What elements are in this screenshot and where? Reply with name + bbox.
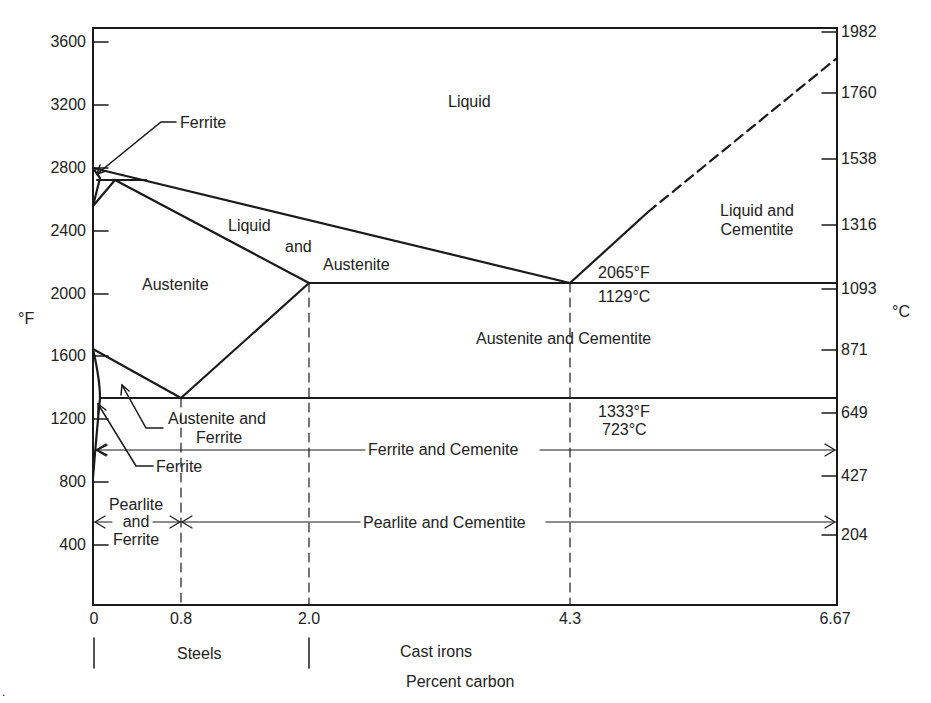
y-left-tick-2000: 2000 <box>20 285 86 303</box>
eutectic-temp-f: 2065°F <box>598 264 650 282</box>
region-austenite-cementite: Austenite and Cementite <box>476 330 651 348</box>
leader-lines <box>97 122 176 466</box>
y-right-tick-1982: 1982 <box>841 23 877 41</box>
x-tick-4-3: 4.3 <box>550 610 590 628</box>
stray-mark: . <box>2 683 5 701</box>
label-ferrite-bottom: Ferrite <box>156 458 202 476</box>
x-axis-label: Percent carbon <box>406 673 515 691</box>
y-right-axis-label: °C <box>892 303 910 321</box>
y-right-tick-871: 871 <box>841 341 868 359</box>
eutectoid-temp-c: 723°C <box>602 421 647 439</box>
dashed-liquidus <box>648 58 837 212</box>
region-pearlite-cementite: Pearlite and Cementite <box>363 514 526 532</box>
y-left-axis-label: °F <box>18 310 34 328</box>
left-axis-ticks <box>93 42 108 545</box>
y-left-tick-3600: 3600 <box>20 33 86 51</box>
y-left-tick-1600: 1600 <box>20 347 86 365</box>
region-liquid-austenite-3: Austenite <box>323 256 390 274</box>
region-pearlite-ferrite-1: Pearlite <box>104 496 168 514</box>
y-right-tick-1316: 1316 <box>841 216 877 234</box>
y-left-tick-3200: 3200 <box>20 96 86 114</box>
y-left-tick-2800: 2800 <box>20 159 86 177</box>
region-austenite-ferrite-2: Ferrite <box>196 429 242 447</box>
region-austenite-ferrite-1: Austenite and <box>168 410 266 428</box>
region-liquid: Liquid <box>448 93 491 111</box>
group-label-steels: Steels <box>177 645 221 663</box>
y-left-tick-2400: 2400 <box>20 222 86 240</box>
x-tick-0: 0 <box>74 610 114 628</box>
region-austenite: Austenite <box>142 276 209 294</box>
region-pearlite-ferrite-2: and <box>104 513 168 531</box>
y-right-tick-649: 649 <box>841 404 868 422</box>
eutectoid-temp-f: 1333°F <box>598 403 650 421</box>
label-ferrite-top: Ferrite <box>180 114 226 132</box>
region-pearlite-ferrite-3: Ferrite <box>104 531 168 549</box>
region-liquid-austenite-1: Liquid <box>228 217 271 235</box>
region-liquid-cementite-2: Cementite <box>712 221 802 239</box>
x-tick-2-0: 2.0 <box>289 610 329 628</box>
x-tick-6-67: 6.67 <box>810 610 860 628</box>
group-label-cast-irons: Cast irons <box>400 643 472 661</box>
y-right-tick-1093: 1093 <box>841 280 877 298</box>
region-liquid-austenite-2: and <box>285 238 312 256</box>
eutectic-temp-c: 1129°C <box>598 288 650 306</box>
region-liquid-cementite-1: Liquid and <box>712 202 802 220</box>
region-ferrite-cementite: Ferrite and Cemenite <box>368 441 518 459</box>
y-right-tick-427: 427 <box>841 467 868 485</box>
y-right-tick-204: 204 <box>841 526 868 544</box>
y-left-tick-1200: 1200 <box>20 410 86 428</box>
x-tick-0-8: 0.8 <box>161 610 201 628</box>
y-left-tick-400: 400 <box>20 536 86 554</box>
y-right-tick-1538: 1538 <box>841 150 877 168</box>
y-left-tick-800: 800 <box>20 473 86 491</box>
y-right-tick-1760: 1760 <box>841 84 877 102</box>
